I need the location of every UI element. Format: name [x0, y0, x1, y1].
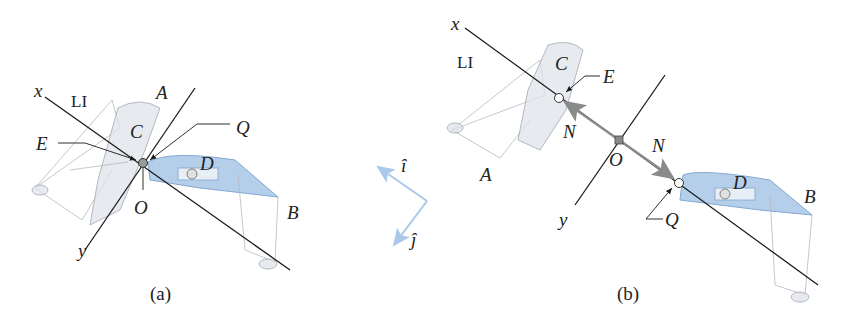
label-q: Q	[665, 209, 679, 230]
label-i-hat: î	[401, 155, 408, 176]
label-a: A	[154, 82, 168, 103]
label-q: Q	[236, 117, 250, 138]
label-a: A	[478, 164, 492, 185]
label-d: D	[732, 172, 747, 193]
point-e	[555, 94, 564, 103]
collision-diagram: x LI A C Q E D O B y (a) î ĵ	[0, 0, 846, 323]
label-b: B	[804, 186, 816, 207]
label-o: O	[134, 197, 148, 218]
label-li: LI	[71, 92, 87, 111]
leader-q	[150, 124, 230, 160]
point-o	[615, 136, 623, 144]
label-c: C	[130, 121, 143, 142]
label-x: x	[33, 80, 43, 101]
label-li: LI	[457, 53, 473, 72]
point-o	[139, 159, 148, 168]
label-b: B	[287, 202, 299, 223]
label-e: E	[35, 133, 48, 154]
point-q	[675, 179, 684, 188]
label-n-right: N	[651, 135, 666, 156]
label-d: D	[199, 153, 214, 174]
label-n-left: N	[562, 121, 577, 142]
label-e: E	[602, 66, 615, 87]
label-y: y	[76, 240, 87, 261]
panel-a: x LI A C Q E D O B y (a)	[32, 80, 299, 305]
panel-b: x LI C E N N O A D B Q y (b)	[447, 13, 818, 305]
label-x: x	[450, 13, 460, 34]
label-c: C	[555, 53, 568, 74]
caption-b: (b)	[617, 283, 639, 305]
label-j-hat: ĵ	[408, 229, 418, 250]
force-n-on-b	[619, 140, 673, 178]
unit-vectors: î ĵ	[378, 155, 427, 250]
label-y: y	[557, 209, 568, 230]
caption-a: (a)	[150, 283, 171, 305]
label-o: O	[609, 149, 623, 170]
